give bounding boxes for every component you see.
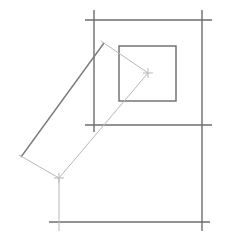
rotated-rect-bottom-edge xyxy=(19,155,59,178)
construction-diagram xyxy=(0,0,225,246)
diagram-canvas xyxy=(0,0,225,246)
